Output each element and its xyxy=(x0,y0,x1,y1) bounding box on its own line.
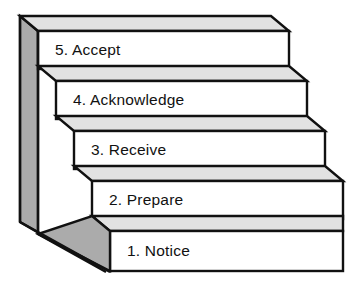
diagram-canvas: 5. Accept 4. Acknowledge 3. Receive 2. P… xyxy=(0,0,357,290)
step-2-tread xyxy=(74,166,343,181)
step-2-group[interactable]: 2. Prepare xyxy=(74,166,343,219)
step-4-group[interactable]: 4. Acknowledge xyxy=(38,66,307,119)
step-3-tread xyxy=(56,116,325,131)
step-5-tread xyxy=(20,16,289,31)
step-5-label: 5. Accept xyxy=(55,41,121,58)
step-2-label: 2. Prepare xyxy=(109,191,183,208)
step-3-group[interactable]: 3. Receive xyxy=(56,116,325,169)
staircase-diagram: 5. Accept 4. Acknowledge 3. Receive 2. P… xyxy=(0,0,357,290)
step-5-group[interactable]: 5. Accept xyxy=(20,16,289,69)
step-1-label: 1. Notice xyxy=(127,242,190,259)
step-4-label: 4. Acknowledge xyxy=(73,91,184,108)
step-1-group[interactable]: 1. Notice xyxy=(92,216,343,271)
step-4-tread xyxy=(38,66,307,81)
step-3-label: 3. Receive xyxy=(91,141,166,158)
staircase-base-wedge xyxy=(38,216,110,271)
step-1-tread xyxy=(92,216,343,231)
